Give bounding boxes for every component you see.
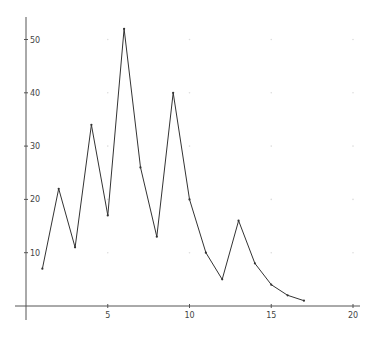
- grid-dot: [352, 39, 354, 41]
- grid-dot: [270, 199, 272, 201]
- data-point-markers: [41, 28, 305, 302]
- data-point: [90, 124, 92, 126]
- grid-dot: [107, 92, 109, 94]
- x-tick-label: 15: [266, 311, 276, 320]
- data-point: [270, 284, 272, 286]
- grid-dot: [107, 39, 109, 41]
- grid-dot: [352, 92, 354, 94]
- data-point: [287, 294, 289, 296]
- grid-dot: [352, 252, 354, 254]
- data-point: [303, 300, 305, 302]
- grid-dot: [189, 252, 191, 254]
- data-point: [188, 198, 190, 200]
- data-point: [107, 214, 109, 216]
- grid-dots: [107, 39, 354, 254]
- x-tick-label: 5: [105, 311, 110, 320]
- grid-dot: [107, 199, 109, 201]
- data-point: [172, 92, 174, 94]
- data-point: [58, 188, 60, 190]
- grid-dot: [189, 39, 191, 41]
- x-tick-label: 10: [184, 311, 194, 320]
- y-tick-label: 50: [30, 36, 40, 45]
- y-tick-label: 30: [30, 142, 40, 151]
- grid-dot: [107, 252, 109, 254]
- y-tick-label: 10: [30, 249, 40, 258]
- y-tick-label: 20: [30, 195, 40, 204]
- line-chart: 5101520 1020304050: [0, 0, 377, 341]
- data-point: [221, 278, 223, 280]
- y-tick-label: 40: [30, 89, 40, 98]
- grid-dot: [189, 145, 191, 147]
- grid-dot: [189, 92, 191, 94]
- data-point: [205, 252, 207, 254]
- grid-dot: [352, 145, 354, 147]
- data-point: [237, 220, 239, 222]
- grid-dot: [352, 199, 354, 201]
- data-point: [139, 166, 141, 168]
- data-point: [41, 268, 43, 270]
- x-tick-label: 20: [348, 311, 358, 320]
- grid-dot: [270, 252, 272, 254]
- grid-dot: [107, 145, 109, 147]
- data-point: [156, 236, 158, 238]
- data-point: [123, 28, 125, 30]
- data-point: [254, 262, 256, 264]
- grid-dot: [270, 39, 272, 41]
- grid-dot: [270, 92, 272, 94]
- grid-dot: [270, 145, 272, 147]
- data-point: [74, 246, 76, 248]
- data-line: [42, 29, 304, 301]
